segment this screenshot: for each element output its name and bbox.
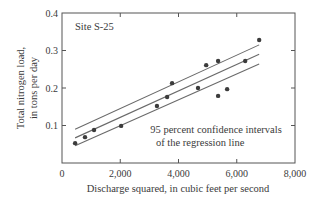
data-point xyxy=(257,38,261,42)
data-point xyxy=(216,59,220,63)
x-axis-label: Discharge squared, in cubic feet per sec… xyxy=(87,183,270,194)
x-tick-labels: 02,0004,0006,0008,000 xyxy=(60,168,307,179)
data-point xyxy=(243,59,247,63)
data-point xyxy=(73,141,77,145)
data-point xyxy=(225,87,229,91)
y-axis-label-line1: Total nitrogen load, xyxy=(15,47,26,129)
data-point xyxy=(119,124,123,128)
data-point xyxy=(196,86,200,90)
y-tick-label: 0.3 xyxy=(46,45,59,56)
data-point xyxy=(92,128,96,132)
ci-annotation-line2: of the regression line xyxy=(156,137,245,148)
data-point xyxy=(83,135,87,139)
data-point xyxy=(155,104,159,108)
x-tick-label: 4,000 xyxy=(167,168,190,179)
data-point xyxy=(170,81,174,85)
x-tick-label: 2,000 xyxy=(109,168,132,179)
y-tick-label: 0.2 xyxy=(46,83,59,94)
x-tick-label: 0 xyxy=(60,168,65,179)
upper-95-confidence-interval-line xyxy=(75,45,259,129)
ci-annotation-line1: 95 percent confidence intervals xyxy=(150,124,281,135)
y-tick-labels: 0.10.20.30.4 xyxy=(46,8,59,132)
site-label: Site S-25 xyxy=(75,21,114,32)
x-tick-label: 6,000 xyxy=(226,168,249,179)
data-point xyxy=(216,94,220,98)
data-point xyxy=(165,95,169,99)
y-tick-label: 0.1 xyxy=(46,120,59,131)
scatter-chart: 02,0004,0006,0008,000 0.10.20.30.4 Site … xyxy=(0,0,324,208)
y-tick-label: 0.4 xyxy=(46,8,59,19)
x-tick-label: 8,000 xyxy=(284,168,307,179)
y-axis-label-line2: in tons per day xyxy=(28,56,39,119)
data-point xyxy=(204,63,208,67)
